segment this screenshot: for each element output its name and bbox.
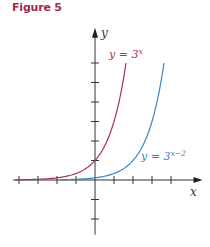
x-axis-arrow-icon — [194, 177, 203, 183]
y-axis-label: y — [100, 26, 108, 40]
curve-1 — [15, 63, 126, 180]
y-axis-arrow-icon — [92, 28, 98, 38]
x-axis-label: x — [190, 185, 197, 199]
curve-1-label: y = 3x — [108, 47, 143, 61]
exponential-chart: xyy = 3xy = 3x−2 — [0, 0, 210, 247]
curve-2-label: y = 3x−2 — [140, 149, 186, 163]
axes — [13, 28, 202, 235]
